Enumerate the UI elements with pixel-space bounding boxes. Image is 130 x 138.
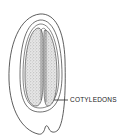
seed-diagram: COTYLEDONS bbox=[0, 0, 130, 138]
cotyledons-label: COTYLEDONS bbox=[70, 96, 117, 103]
seed-illustration bbox=[0, 0, 130, 138]
